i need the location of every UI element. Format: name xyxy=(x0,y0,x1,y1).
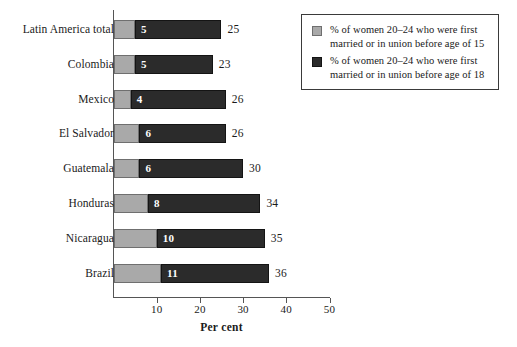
x-axis-title: Per cent xyxy=(113,321,330,333)
bar-end-value: 26 xyxy=(232,90,244,109)
category-label: Colombia xyxy=(68,55,114,74)
bar-segment-before-18: 4 xyxy=(131,90,226,109)
x-tick-label: 30 xyxy=(237,303,248,315)
chart-figure: 1020304050 Latin America total525Colombi… xyxy=(0,0,517,347)
category-label: Guatemala xyxy=(63,159,114,178)
bar-end-value: 36 xyxy=(275,264,287,283)
category-label: Brazil xyxy=(85,264,114,283)
bar-segment-before-18: 6 xyxy=(139,124,225,143)
x-tick-label: 20 xyxy=(194,303,205,315)
bar-segment-before-18: 10 xyxy=(157,229,265,248)
bar-segment-before-18: 5 xyxy=(135,20,221,39)
bar-inner-value: 10 xyxy=(163,230,175,247)
bar-inner-value: 8 xyxy=(154,195,160,212)
bar-segment-before-15 xyxy=(114,20,136,39)
x-tick-label: 10 xyxy=(151,303,162,315)
bar-segment-before-15 xyxy=(114,159,140,178)
bar-segment-before-18: 11 xyxy=(161,264,269,283)
bar-inner-value: 5 xyxy=(141,56,147,73)
x-tick-label: 50 xyxy=(324,303,335,315)
legend-line-1: % of women 20–24 who were first xyxy=(330,24,477,35)
bar-segment-before-15 xyxy=(114,229,157,248)
bar-inner-value: 11 xyxy=(167,265,178,282)
bar-segment-before-15 xyxy=(114,194,149,213)
bar-end-value: 25 xyxy=(228,20,240,39)
bar-end-value: 23 xyxy=(219,55,231,74)
legend-line-2: married or in union before age of 15 xyxy=(330,38,484,49)
legend-line-1: % of women 20–24 who were first xyxy=(330,55,477,66)
legend-swatch-dark-icon xyxy=(312,57,322,67)
x-tick-label: 40 xyxy=(281,303,292,315)
legend-line-2: married or in union before age of 18 xyxy=(330,69,484,80)
bar-segment-before-15 xyxy=(114,55,136,74)
bar-row: Guatemala630 xyxy=(0,159,517,178)
bar-inner-value: 5 xyxy=(141,21,147,38)
category-label: Nicaragua xyxy=(66,229,114,248)
chart-legend: % of women 20–24 who were first married … xyxy=(301,14,499,90)
bar-end-value: 30 xyxy=(249,159,261,178)
bar-row: Nicaragua1035 xyxy=(0,229,517,248)
category-label: El Salvador xyxy=(59,124,114,143)
bar-inner-value: 6 xyxy=(145,125,151,142)
bar-row: Brazil1136 xyxy=(0,264,517,283)
category-label: Mexico xyxy=(78,90,114,109)
bar-segment-before-18: 6 xyxy=(139,159,243,178)
bar-segment-before-18: 8 xyxy=(148,194,260,213)
bar-end-value: 26 xyxy=(232,124,244,143)
bar-end-value: 35 xyxy=(271,229,283,248)
x-axis-line xyxy=(113,297,330,298)
bar-inner-value: 4 xyxy=(137,91,143,108)
legend-swatch-light-icon xyxy=(312,26,322,36)
legend-label-before-18: % of women 20–24 who were first married … xyxy=(330,54,496,81)
bar-row: El Salvador626 xyxy=(0,124,517,143)
bar-inner-value: 6 xyxy=(145,160,151,177)
bar-end-value: 34 xyxy=(266,194,278,213)
category-label: Honduras xyxy=(68,194,114,213)
bar-segment-before-15 xyxy=(114,124,140,143)
bar-segment-before-15 xyxy=(114,264,162,283)
bar-segment-before-15 xyxy=(114,90,131,109)
y-axis-line xyxy=(113,10,114,298)
bar-row: Mexico426 xyxy=(0,90,517,109)
legend-label-before-15: % of women 20–24 who were first married … xyxy=(330,23,496,50)
bar-row: Honduras834 xyxy=(0,194,517,213)
category-label: Latin America total xyxy=(23,20,114,39)
bar-segment-before-18: 5 xyxy=(135,55,213,74)
